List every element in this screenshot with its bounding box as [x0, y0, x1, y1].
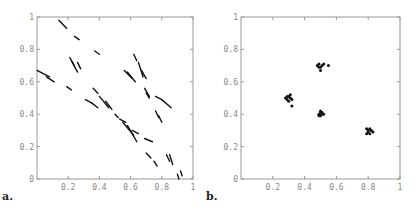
x-tick-label: 1: [398, 183, 403, 192]
line-segment: [162, 100, 171, 108]
y-tick-label: 0: [29, 175, 34, 184]
line-segment: [132, 130, 138, 133]
scatter-point: [286, 95, 289, 98]
y-tick-label: 0.2: [224, 143, 239, 152]
x-tick-label: 1: [191, 183, 196, 192]
scatter-point: [290, 105, 293, 108]
line-segment: [145, 139, 153, 142]
scatter-point: [322, 113, 325, 116]
line-segment: [127, 72, 135, 82]
x-tick-label: 0.8: [361, 183, 376, 192]
line-segment: [78, 62, 81, 68]
scatter-point: [289, 93, 292, 96]
line-segment: [67, 87, 72, 90]
y-tick-label: 0: [233, 175, 238, 184]
line-segment: [46, 77, 54, 82]
scatter-point: [317, 62, 320, 65]
y-tick-label: 0.6: [20, 78, 35, 87]
y-tick-label: 1: [29, 13, 34, 22]
scatter-point: [368, 132, 371, 135]
line-segment: [134, 54, 137, 60]
x-tick-label: 0.2: [266, 183, 281, 192]
scatter-point: [317, 114, 320, 117]
scatter-point: [319, 69, 322, 72]
scatter-point: [365, 132, 368, 135]
y-tick-label: 0.8: [224, 45, 239, 54]
panel-a: 00.20.40.60.810.20.40.60.81a.: [2, 13, 196, 203]
line-segment: [85, 100, 91, 103]
panel-label: a.: [2, 190, 13, 203]
line-segment: [74, 36, 79, 39]
scatter-point: [319, 109, 322, 112]
scatter-point: [371, 131, 374, 134]
line-segment: [127, 126, 136, 142]
line-segment: [156, 111, 159, 117]
y-tick-label: 1: [233, 13, 238, 22]
line-segment: [95, 51, 100, 54]
line-segment: [93, 88, 98, 93]
line-segment: [37, 70, 49, 76]
panel-b: 00.20.40.60.810.20.40.60.81b.: [206, 13, 403, 203]
y-tick-label: 0.6: [224, 78, 239, 87]
line-segment: [166, 155, 169, 161]
line-segment: [71, 61, 77, 72]
plot-frame: [241, 17, 400, 179]
line-segment: [154, 161, 157, 166]
scatter-point: [322, 62, 325, 65]
line-segment: [92, 103, 98, 108]
scatter-point: [287, 100, 290, 103]
x-tick-label: 0.8: [155, 183, 170, 192]
line-segment: [177, 174, 179, 179]
y-tick-label: 0.2: [20, 143, 35, 152]
scatter-point: [290, 98, 293, 101]
scatter-point: [327, 64, 330, 67]
line-segment: [115, 114, 118, 117]
figure: 00.20.40.60.810.20.40.60.81a. 00.20.40.6…: [0, 0, 416, 207]
scatter-point: [317, 66, 320, 69]
y-tick-label: 0.4: [20, 110, 35, 119]
line-segment: [159, 116, 162, 122]
x-tick-label: 0.6: [123, 183, 138, 192]
line-segment: [99, 96, 108, 107]
line-segment: [146, 153, 151, 158]
x-tick-label: 0.2: [61, 183, 76, 192]
x-tick-label: 0.6: [329, 183, 344, 192]
y-tick-label: 0.8: [20, 45, 35, 54]
line-segment: [181, 171, 183, 176]
y-tick-label: 0.4: [224, 110, 239, 119]
line-segment: [59, 20, 67, 28]
line-segment: [170, 155, 173, 165]
x-tick-label: 0.4: [297, 183, 312, 192]
line-segment: [138, 62, 143, 77]
line-segment: [156, 96, 162, 99]
x-tick-label: 0.4: [92, 183, 107, 192]
panel-label: b.: [206, 190, 218, 203]
